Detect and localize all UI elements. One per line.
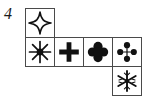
figure-root: 4 xyxy=(0,0,148,101)
grid-cell-r1c0[interactable] xyxy=(25,37,55,67)
eight-pointed-asterisk-filled-icon xyxy=(27,39,53,65)
dotted-plus-four-circles-icon xyxy=(114,39,140,65)
four-pointed-star-outline-icon xyxy=(27,10,53,36)
grid-cell-r1c3[interactable] xyxy=(112,37,142,67)
grid-cell-r1c1[interactable] xyxy=(54,37,84,67)
grid-cell-r1c2[interactable] xyxy=(83,37,113,67)
grid-cell-r2c3[interactable] xyxy=(112,66,142,96)
four-lobed-clover-filled-icon xyxy=(85,39,111,65)
symbol-grid xyxy=(25,8,142,95)
heavy-plus-cross-icon xyxy=(56,39,82,65)
grid-cell-r0c0[interactable] xyxy=(25,8,55,38)
six-pointed-snowflake-asterisk-icon xyxy=(114,68,140,94)
figure-number-label: 4 xyxy=(4,6,12,22)
